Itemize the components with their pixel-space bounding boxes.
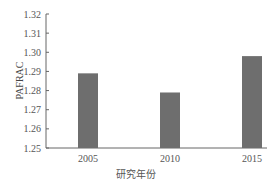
y-tick-label: 1.26 (24, 123, 42, 134)
y-tick-label: 1.29 (24, 66, 42, 77)
x-axis-label: 研究年份 (0, 166, 271, 181)
y-tick-label: 1.25 (24, 143, 42, 154)
x-tick-label: 2005 (78, 153, 98, 164)
y-axis-label: PAFRAC (14, 56, 25, 106)
y-tick-label: 1.27 (24, 104, 42, 115)
y-tick-label: 1.32 (24, 9, 42, 20)
y-tick-label: 1.30 (24, 47, 42, 58)
y-tick-label: 1.31 (24, 28, 42, 39)
y-tick-label: 1.28 (24, 85, 42, 96)
bar-2015 (242, 56, 262, 148)
bar-chart: 1.251.261.271.281.291.301.311.3220052010… (0, 0, 271, 189)
bar-2005 (78, 73, 98, 148)
plot-area: 1.251.261.271.281.291.301.311.3220052010… (0, 0, 271, 189)
x-tick-label: 2015 (242, 153, 262, 164)
bar-2010 (160, 92, 180, 148)
x-tick-label: 2010 (160, 153, 180, 164)
